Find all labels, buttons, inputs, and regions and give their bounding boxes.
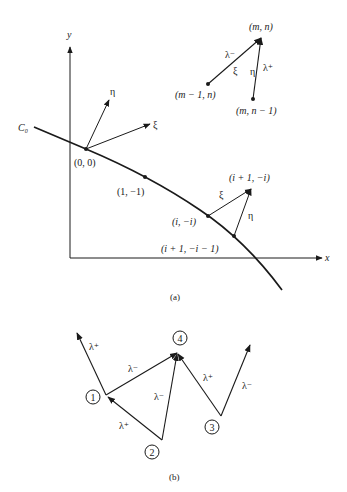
stencil-bottom-label: (m, n − 1)	[236, 105, 277, 117]
svg-text:2: 2	[150, 447, 155, 458]
point-i1-negi1-label: (i + 1, −i − 1)	[161, 243, 219, 255]
point-i1-negi-label: (i + 1, −i)	[229, 172, 270, 184]
xi-label-origin: ξ	[153, 119, 158, 131]
y-axis-label: y	[66, 29, 72, 40]
point-origin-label: (0, 0)	[74, 157, 96, 169]
label-2-to-4: λ⁻	[154, 391, 164, 402]
stencil-eta-label: η	[250, 66, 255, 77]
stencil-lambda-minus-arrow	[208, 38, 261, 84]
edge-2-to-4-lambda-minus	[162, 354, 177, 440]
edge-3-to-4-lambda-plus	[178, 354, 221, 416]
label-3-up: λ⁻	[242, 380, 252, 391]
stencil-xi-label: ξ	[233, 65, 238, 77]
characteristics-diagram: y x C0 η ξ (0, 0) (1, −1) (i, −i) (i + 1…	[0, 0, 347, 492]
point-1-neg1-label: (1, −1)	[117, 186, 144, 198]
xi-label-step: ξ	[219, 189, 224, 201]
edge-1-to-4-lambda-minus	[106, 353, 177, 395]
label-1-up: λ⁺	[89, 341, 99, 352]
curve-c0-label: C0	[18, 122, 28, 134]
node-4: 4	[173, 331, 187, 345]
point-1-neg1	[143, 175, 147, 179]
panel-a: y x C0 η ξ (0, 0) (1, −1) (i, −i) (i + 1…	[18, 21, 330, 302]
edge-2-to-1-lambda-plus	[108, 397, 162, 440]
eta-label-origin: η	[110, 86, 115, 97]
node-2: 2	[145, 445, 159, 459]
stencil-lambda-minus-label: λ⁻	[225, 49, 235, 60]
label-2-to-1: λ⁺	[119, 420, 129, 431]
panel-a-caption: (a)	[170, 292, 180, 302]
eta-label-step: η	[248, 210, 253, 221]
stencil-lambda-plus-label: λ⁺	[263, 62, 273, 73]
x-axis-label: x	[324, 252, 330, 263]
stencil-top-label: (m, n)	[249, 21, 274, 33]
panel-b: λ⁺ λ⁻ λ⁺ λ⁻ λ⁺ λ⁻ 1 2 3 4 (b)	[77, 331, 252, 482]
curve-c0	[34, 127, 282, 290]
stencil-left-label: (m − 1, n)	[175, 89, 216, 101]
panel-b-caption: (b)	[169, 472, 180, 482]
svg-text:1: 1	[91, 392, 96, 403]
svg-text:4: 4	[178, 333, 183, 344]
node-1: 1	[86, 390, 100, 404]
node-3: 3	[205, 420, 219, 434]
stencil: (m, n) (m − 1, n) (m, n − 1) λ⁻ ξ η λ⁺	[175, 21, 277, 117]
label-1-to-4: λ⁻	[128, 363, 138, 374]
point-i-negi-label: (i, −i)	[172, 216, 197, 228]
label-3-to-4: λ⁺	[203, 372, 213, 383]
xi-arrow-step	[208, 189, 251, 216]
svg-text:3: 3	[210, 422, 215, 433]
